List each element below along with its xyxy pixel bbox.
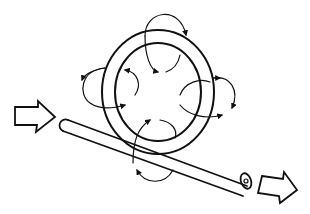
- rod: [59, 119, 253, 196]
- field-loop-arrows: [82, 14, 235, 181]
- input-arrow: [15, 101, 55, 132]
- ring: [102, 30, 214, 154]
- output-arrow: [258, 172, 297, 203]
- diagram: [0, 0, 310, 214]
